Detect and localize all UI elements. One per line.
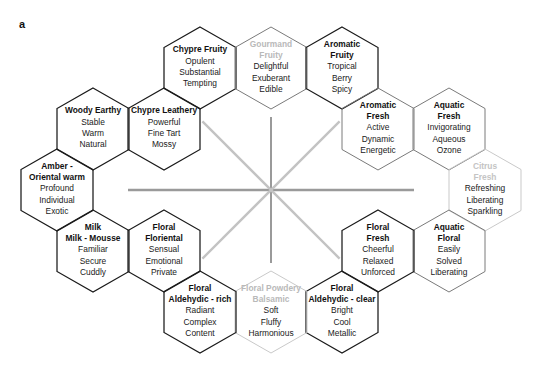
- hexagon-floral-aldehydic-rich[interactable]: [164, 271, 236, 353]
- figure-panel: a Chypre FruityOpulentSubstantialTemptin…: [0, 0, 536, 377]
- hexagon-milk-mousse[interactable]: [57, 210, 129, 292]
- hexagon-aquatic-fresh[interactable]: [413, 88, 485, 170]
- hexagon-chypre-leathery[interactable]: [128, 88, 200, 170]
- hexagon-aromatic-fruity[interactable]: [306, 27, 378, 109]
- hexagon-floral-powdery[interactable]: [235, 271, 307, 353]
- hexagon-chypre-fruity[interactable]: [164, 27, 236, 109]
- hexagon-wheel-svg: [0, 0, 536, 377]
- hexagon-floral-aldehydic-clear[interactable]: [306, 271, 378, 353]
- hexagon-floral-fresh[interactable]: [342, 210, 414, 292]
- hexagon-aromatic-fresh[interactable]: [342, 88, 414, 170]
- center-star-lines: [128, 117, 414, 263]
- hexagon-gourmand-fruity[interactable]: [235, 27, 307, 109]
- hexagon-amber-oriental-warm[interactable]: [21, 149, 93, 231]
- hexagon-citrus-fresh[interactable]: [449, 149, 521, 231]
- hexagon-floral-floriental[interactable]: [128, 210, 200, 292]
- hexagon-aquatic-floral[interactable]: [413, 210, 485, 292]
- hexagon-woody-earthy[interactable]: [57, 88, 129, 170]
